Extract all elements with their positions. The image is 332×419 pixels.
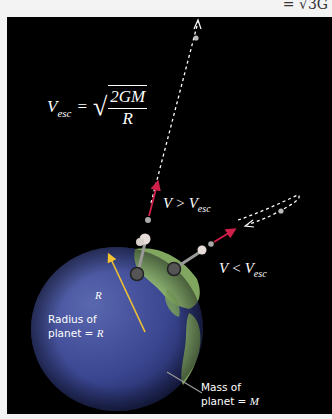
escape-condition-label: V>Vesc — [163, 195, 211, 212]
formula-lhs-sub: esc — [57, 107, 71, 119]
diagram-graphics — [7, 17, 332, 414]
escape-trajectory-arrowhead-icon — [194, 20, 201, 29]
escape-velocity-arrow — [149, 185, 157, 216]
escape-v: V — [163, 195, 172, 211]
orbit-rhs-sub: esc — [254, 268, 267, 279]
radius-caption-var: R — [97, 327, 104, 339]
escape-rhs-var: V — [189, 195, 198, 211]
escape-velocity-formula: Vesc = √ 2GM R — [47, 85, 147, 128]
radius-caption-line1: Radius of — [48, 312, 103, 326]
orbit-v: V — [219, 260, 228, 276]
formula-equals: = — [77, 97, 87, 117]
formula-lhs-var: V — [47, 97, 57, 116]
radius-symbol: R — [95, 289, 102, 301]
formula-numerator: 2GM — [108, 88, 147, 109]
orbit-rhs-var: V — [245, 260, 254, 276]
escape-rhs-sub: esc — [198, 203, 211, 214]
orbit-condition-label: V<Vesc — [219, 260, 267, 277]
escape-op: > — [176, 195, 184, 211]
mass-caption-var: M — [250, 395, 259, 407]
escape-velocity-diagram: Vesc = √ 2GM R V>Vesc V<Vesc R Radius of… — [7, 17, 332, 414]
radius-caption: Radius of planet = R — [48, 312, 103, 340]
mass-caption-line1: Mass of — [201, 380, 259, 394]
orbit-trajectory — [238, 195, 299, 225]
formula-denominator: R — [123, 109, 133, 129]
radius-caption-line2: planet = — [48, 327, 93, 339]
sqrt-icon: √ — [93, 92, 107, 122]
escaping-projectile — [193, 35, 198, 40]
formula-lhs: Vesc — [47, 97, 71, 117]
orbiting-projectile — [278, 208, 283, 213]
orbit-projectile — [208, 241, 214, 247]
mass-caption-line2: planet = — [201, 395, 246, 407]
formula-fraction: 2GM R — [108, 85, 147, 128]
escape-projectile — [145, 217, 151, 223]
cropped-equation-fragment: = √3G — [283, 0, 328, 12]
mass-caption: Mass of planet = M — [201, 380, 259, 408]
escape-trajectory — [151, 22, 198, 203]
orbit-velocity-arrow — [214, 231, 232, 242]
orbit-op: < — [232, 260, 240, 276]
